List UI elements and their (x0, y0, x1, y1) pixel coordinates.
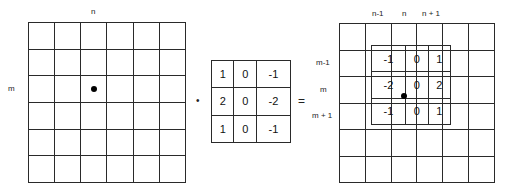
input-grid-cell (159, 23, 185, 50)
input-grid-cell (133, 23, 159, 50)
overlay-kernel-cell: 0 (406, 98, 428, 124)
overlay-kernel-row: -101 (372, 98, 451, 124)
input-grid (28, 22, 186, 183)
input-grid-cell (29, 49, 55, 76)
output-grid-cell (391, 156, 417, 183)
input-grid-cell (159, 156, 185, 183)
kernel-cell: 2 (212, 88, 234, 115)
input-grid-cell (55, 76, 81, 103)
kernel-cell: -1 (256, 115, 290, 142)
overlay-kernel-cell: 2 (428, 72, 451, 98)
output-grid-cell (469, 130, 495, 157)
input-row-label: m (8, 84, 15, 94)
kernel-row: 10-1 (212, 115, 291, 142)
overlay-kernel-cell: 0 (406, 72, 428, 98)
input-grid-cell (107, 49, 133, 76)
kernel-cell: 0 (234, 61, 256, 88)
kernel-cell: 1 (212, 61, 234, 88)
input-grid-row (29, 49, 186, 76)
input-grid-cell (55, 102, 81, 129)
kernel-row: 20-2 (212, 88, 291, 115)
output-grid-cell (340, 24, 366, 51)
output-grid-cell (469, 24, 495, 51)
convolution-operator: • (196, 95, 200, 107)
input-grid-cell (29, 156, 55, 183)
output-grid-cell (443, 130, 469, 157)
overlay-kernel: -101-202-101 (371, 45, 451, 125)
output-row-label-m: m (320, 85, 327, 95)
kernel-cell: -1 (256, 61, 290, 88)
output-grid-cell (469, 103, 495, 130)
equals-sign: = (298, 95, 305, 107)
kernel-cell: -2 (256, 88, 290, 115)
input-grid-cell (81, 102, 107, 129)
overlay-kernel-row: -202 (372, 72, 451, 98)
output-grid-row (340, 156, 495, 183)
input-grid-cell (133, 102, 159, 129)
kernel-matrix: 10-120-210-1 (211, 60, 291, 143)
kernel-cell: 0 (234, 88, 256, 115)
input-grid-cell (159, 102, 185, 129)
output-grid-cell (469, 77, 495, 104)
input-center-dot-icon (91, 86, 97, 92)
overlay-kernel-row: -101 (372, 46, 451, 72)
output-row-label-m-plus-1: m + 1 (312, 111, 332, 121)
output-grid-cell (391, 130, 417, 157)
input-grid-cell (133, 76, 159, 103)
output-grid-cell (469, 50, 495, 77)
input-grid-cell (107, 156, 133, 183)
output-grid-cell (340, 156, 366, 183)
output-grid-cell (340, 50, 366, 77)
output-grid-cell (417, 156, 443, 183)
input-col-label: n (91, 7, 95, 17)
output-row-label-m-minus-1: m-1 (316, 58, 330, 68)
input-grid-cell (133, 156, 159, 183)
input-grid-cell (55, 156, 81, 183)
output-grid-cell (365, 156, 391, 183)
input-grid-cell (133, 129, 159, 156)
output-grid-cell (417, 130, 443, 157)
output-grid-cell (340, 103, 366, 130)
input-grid-cell (55, 49, 81, 76)
input-grid-row (29, 156, 186, 183)
input-grid-cell (81, 49, 107, 76)
input-grid-cell (29, 102, 55, 129)
input-grid-row (29, 102, 186, 129)
input-grid-cell (55, 23, 81, 50)
input-grid-cell (29, 129, 55, 156)
overlay-kernel-cell: 0 (406, 46, 428, 72)
input-grid-cell (81, 129, 107, 156)
output-center-dot-icon (401, 93, 407, 99)
overlay-kernel-cell: -1 (372, 46, 406, 72)
kernel-cell: 0 (234, 115, 256, 142)
kernel-cell: 1 (212, 115, 234, 142)
overlay-kernel-cell: -1 (372, 98, 406, 124)
input-grid-cell (159, 129, 185, 156)
input-grid-cell (159, 76, 185, 103)
input-grid-cell (29, 76, 55, 103)
output-grid-row (340, 130, 495, 157)
input-grid-cell (81, 23, 107, 50)
input-grid-cell (107, 129, 133, 156)
output-col-label-n-plus-1: n + 1 (422, 9, 440, 19)
input-grid-row (29, 23, 186, 50)
overlay-kernel-cell: 1 (428, 98, 451, 124)
input-grid-cell (107, 102, 133, 129)
kernel-row: 10-1 (212, 61, 291, 88)
input-grid-cell (107, 23, 133, 50)
input-grid-cell (107, 76, 133, 103)
output-col-label-n-minus-1: n-1 (372, 9, 384, 19)
input-grid-cell (55, 129, 81, 156)
input-grid-row (29, 76, 186, 103)
output-grid-cell (443, 156, 469, 183)
output-grid-cell (340, 130, 366, 157)
overlay-kernel-cell: 1 (428, 46, 451, 72)
output-col-label-n: n (402, 9, 406, 19)
output-grid-cell (340, 77, 366, 104)
input-grid-cell (81, 156, 107, 183)
input-grid-cell (133, 49, 159, 76)
input-grid-cell (159, 49, 185, 76)
output-grid-cell (365, 130, 391, 157)
input-grid-cell (29, 23, 55, 50)
input-grid-row (29, 129, 186, 156)
